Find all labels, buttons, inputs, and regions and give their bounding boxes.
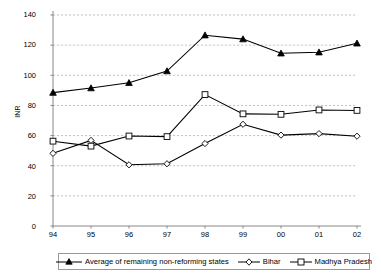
data-point-marker <box>50 150 56 156</box>
chart-legend: Average of remaining non-reforming state… <box>58 253 370 270</box>
legend-item-average: Average of remaining non-reforming state… <box>56 257 229 267</box>
legend-item-bihar: Bihar <box>238 257 281 267</box>
series-line <box>53 95 357 147</box>
data-point-marker <box>354 133 360 139</box>
open-square-marker-icon <box>290 257 312 267</box>
data-point-marker <box>202 32 209 38</box>
data-point-marker <box>50 138 56 144</box>
data-point-marker <box>88 137 94 143</box>
legend-item-madhya-pradesh: Madhya Pradesh <box>290 257 372 267</box>
data-point-marker <box>202 92 208 98</box>
data-point-marker <box>316 107 322 113</box>
filled-triangle-marker-icon <box>56 257 82 267</box>
series-line <box>53 35 357 92</box>
data-point-marker <box>354 40 361 46</box>
data-point-marker <box>202 140 208 146</box>
data-point-marker <box>88 143 94 149</box>
data-point-marker <box>240 121 246 127</box>
line-chart: INR 140 120 100 80 60 40 20 0 94 95 96 9… <box>0 0 381 277</box>
data-point-marker <box>126 133 132 139</box>
data-point-marker <box>278 132 284 138</box>
data-point-marker <box>164 134 170 140</box>
data-point-marker <box>240 111 246 117</box>
data-point-marker <box>354 108 360 114</box>
legend-label: Average of remaining non-reforming state… <box>85 257 229 266</box>
legend-label: Bihar <box>263 257 281 266</box>
legend-label: Madhya Pradesh <box>315 257 372 266</box>
data-point-marker <box>126 162 132 168</box>
data-point-marker <box>278 111 284 117</box>
plot-area <box>0 0 381 277</box>
open-diamond-marker-icon <box>238 257 260 267</box>
